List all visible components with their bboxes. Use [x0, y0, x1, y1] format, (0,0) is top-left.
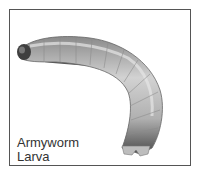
caption: Armyworm Larva	[17, 136, 79, 164]
caption-line-1: Armyworm	[17, 136, 79, 150]
caption-line-2: Larva	[17, 150, 79, 164]
